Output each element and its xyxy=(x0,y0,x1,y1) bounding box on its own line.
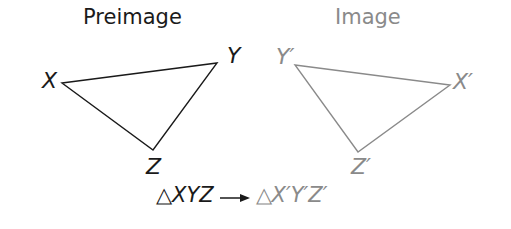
vertex-label-x-prime: X′ xyxy=(453,71,473,93)
vertex-label-y-prime: Y′ xyxy=(276,46,294,68)
image-triangle-name: △X′Y′Z′ xyxy=(256,185,328,206)
vertex-label-y: Y xyxy=(227,45,240,67)
triangle-symbol-icon: △ xyxy=(156,183,172,207)
image-triangle xyxy=(295,65,450,152)
vertex-label-z: Z xyxy=(146,156,161,178)
vertex-label-z-prime: Z′ xyxy=(351,156,371,178)
preimage-triangle-name: △XYZ xyxy=(156,185,214,206)
transformation-diagram: Preimage Image X Y Z Y′ X′ Z′ △XYZ △X′Y′… xyxy=(0,0,511,229)
triangle-symbol-icon: △ xyxy=(256,183,272,207)
mapping-notation: △XYZ △X′Y′Z′ xyxy=(156,185,328,206)
image-name-text: X′Y′Z′ xyxy=(272,183,328,207)
right-arrow-icon xyxy=(220,192,250,204)
preimage-triangle xyxy=(62,63,217,150)
vertex-label-x: X xyxy=(42,70,57,92)
preimage-name-text: XYZ xyxy=(172,183,214,207)
